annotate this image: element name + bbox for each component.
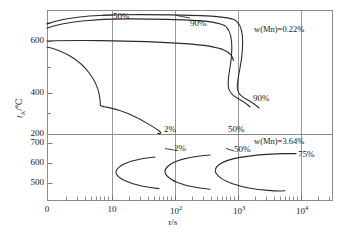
- xtick-label-1e2-exponent: 2: [179, 204, 182, 211]
- xtick-label-1e4-exponent: 4: [305, 204, 308, 211]
- frame-rect: [48, 11, 333, 201]
- curve-lower-75: [215, 154, 285, 191]
- ytick-label-500-lower: 500: [10, 177, 44, 187]
- xtick-label-1e2: 102: [164, 204, 188, 216]
- y-axis-title-unit: /℃: [14, 98, 24, 111]
- leader-lower-50: [226, 148, 234, 151]
- curve-label-upper-2: 2%: [164, 124, 176, 134]
- curve-label-upper-90-right: 90%: [253, 93, 270, 103]
- curve-upper-2: [47, 47, 161, 134]
- chart-canvas: [0, 0, 342, 235]
- x-axis-title: τ/s: [168, 217, 177, 227]
- plot-frame: [48, 11, 333, 201]
- y-axis-title: tA/℃: [14, 98, 26, 118]
- ytick-label-700-lower: 700: [10, 137, 44, 147]
- curve-label-upper-90-top: 90%: [190, 18, 207, 28]
- curve-upper-start: [47, 41, 234, 61]
- x-axis-minor-ticks: [67, 196, 330, 201]
- xtick-label-1e3-exponent: 3: [242, 204, 245, 211]
- xtick-label-1e4: 104: [290, 204, 314, 216]
- annotation-lower-composition: w(Mn)=3.64%: [254, 136, 304, 146]
- curve-label-upper-50-right: 50%: [228, 124, 245, 134]
- curve-upper-90: [47, 19, 250, 107]
- xtick-label-1e4-base: 10: [296, 206, 305, 216]
- curve-label-lower-2: 2%: [174, 143, 186, 153]
- xtick-label-1e3: 103: [227, 204, 251, 216]
- figure-ttt-diagram: tA/℃ 600 400 200 700 600 500 0 10 102 10…: [0, 0, 342, 235]
- y-axis-ticks: [48, 42, 53, 184]
- y-axis-title-subscript: A: [19, 111, 26, 116]
- annotation-upper-composition: w(Mn)=0.22%: [254, 24, 304, 34]
- xtick-label-0: 0: [37, 204, 57, 214]
- x-axis-title-unit: /s: [171, 217, 177, 227]
- xtick-label-1e2-base: 10: [170, 206, 179, 216]
- curve-label-upper-50-top: 50%: [113, 11, 130, 21]
- curve-label-lower-75: 75%: [298, 149, 315, 159]
- y-axis-title-symbol: t: [14, 115, 24, 118]
- upper-panel-curves: [47, 15, 259, 134]
- ytick-label-600-upper: 600: [10, 35, 44, 45]
- curve-label-lower-50: 50%: [234, 144, 251, 154]
- lower-panel-curves: [116, 154, 296, 191]
- leader-lower-2: [165, 149, 174, 150]
- ytick-label-600-lower: 600: [10, 157, 44, 167]
- curve-lower-2: [116, 157, 159, 189]
- ytick-label-400-upper: 400: [10, 87, 44, 97]
- xtick-label-10: 10: [102, 204, 122, 214]
- curve-lower-50: [165, 155, 210, 189]
- xtick-label-1e3-base: 10: [233, 206, 242, 216]
